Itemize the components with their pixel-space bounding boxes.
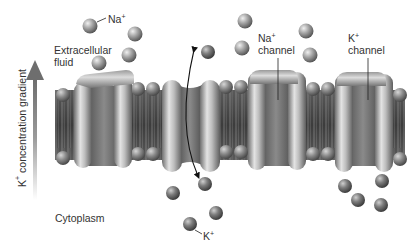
extracellular-label: Extracellularfluid bbox=[54, 44, 112, 68]
k-channel bbox=[335, 58, 393, 172]
center-open-channel bbox=[162, 50, 220, 176]
membrane-diagram: Na+ Extracellularfluid Na+channel K+chan… bbox=[0, 0, 420, 242]
k-channel-label: K+channel bbox=[348, 32, 385, 56]
left-channel bbox=[74, 70, 134, 168]
na-channel-label: Na+channel bbox=[258, 32, 295, 56]
cytoplasm-label: Cytoplasm bbox=[55, 212, 105, 224]
na-ion-label: Na+ bbox=[108, 13, 126, 25]
concentration-gradient-arrow bbox=[26, 60, 44, 200]
k-ion-label: K+ bbox=[203, 230, 214, 242]
na-channel bbox=[248, 58, 306, 170]
concentration-gradient-label: K+ concentration gradient bbox=[16, 69, 28, 187]
